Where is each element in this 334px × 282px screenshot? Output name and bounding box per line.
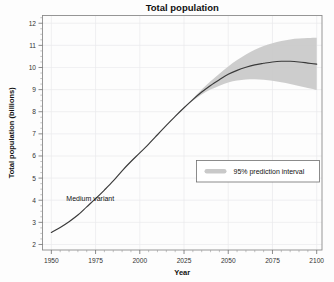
x-tick-label: 2025	[177, 257, 192, 264]
y-tick-label: 12	[29, 20, 37, 27]
y-tick-label: 8	[32, 108, 36, 115]
y-tick-label: 3	[32, 219, 36, 226]
page-title: Total population	[146, 2, 219, 13]
y-axis-title: Total population (billions)	[7, 87, 16, 179]
x-tick-label: 2075	[265, 257, 280, 264]
y-tick-label: 10	[29, 64, 37, 71]
chart-legend[interactable]: 95% prediction interval	[197, 161, 320, 183]
y-tick-label: 4	[32, 197, 36, 204]
y-tick-label: 2	[32, 241, 36, 248]
y-tick-label: 7	[32, 130, 36, 137]
y-tick-label: 6	[32, 152, 36, 159]
x-tick-label: 1950	[44, 257, 59, 264]
chart-page: 1950197520002025205020752100 23456789101…	[0, 0, 334, 282]
chart-annotations: Medium variant	[66, 195, 114, 202]
total-population-chart: 1950197520002025205020752100 23456789101…	[0, 0, 334, 282]
x-tick-label: 2100	[309, 257, 324, 264]
legend-label-prediction-interval: 95% prediction interval	[234, 168, 305, 176]
x-tick-label: 2050	[221, 257, 236, 264]
x-tick-label: 2000	[132, 257, 147, 264]
y-tick-label: 9	[32, 86, 36, 93]
medium-variant-annotation: Medium variant	[66, 195, 114, 202]
x-tick-label: 1975	[88, 257, 103, 264]
legend-swatch-prediction-interval	[205, 169, 227, 174]
x-axis-title: Year	[174, 268, 190, 277]
y-tick-label: 5	[32, 175, 36, 182]
y-tick-label: 11	[29, 42, 36, 49]
